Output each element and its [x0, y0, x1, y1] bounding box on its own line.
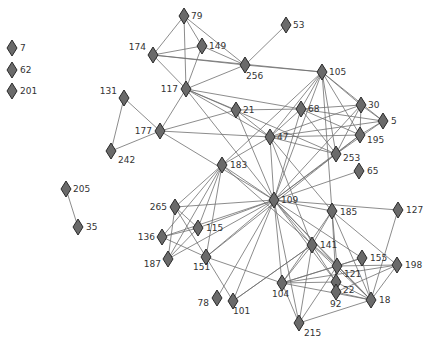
node-177[interactable]: 177: [135, 123, 165, 139]
node-265[interactable]: 265: [150, 199, 180, 215]
diamond-node-icon[interactable]: [393, 202, 403, 218]
diamond-node-icon[interactable]: [157, 229, 167, 245]
node-62[interactable]: 62: [7, 62, 31, 78]
node-label: 22: [343, 285, 354, 295]
node-label: 253: [343, 153, 360, 163]
node-label: 185: [340, 207, 357, 217]
node-label: 265: [150, 202, 167, 212]
diamond-node-icon[interactable]: [281, 17, 291, 33]
edge-174-105: [153, 55, 322, 72]
edge-21-109: [236, 110, 274, 200]
diamond-node-icon[interactable]: [7, 83, 17, 99]
node-label: 121: [344, 269, 361, 279]
diamond-node-icon[interactable]: [7, 40, 17, 56]
diamond-node-icon[interactable]: [357, 250, 367, 266]
node-label: 136: [138, 232, 155, 242]
node-215[interactable]: 215: [294, 315, 321, 338]
diamond-node-icon[interactable]: [148, 47, 158, 63]
node-label: 104: [272, 289, 289, 299]
node-label: 141: [320, 240, 337, 250]
diamond-node-icon[interactable]: [354, 163, 364, 179]
node-label: 53: [293, 20, 304, 30]
diamond-node-icon[interactable]: [366, 292, 376, 308]
node-155[interactable]: 155: [357, 250, 387, 266]
node-label: 205: [73, 184, 90, 194]
node-label: 151: [193, 262, 210, 272]
diamond-node-icon[interactable]: [7, 62, 17, 78]
node-117[interactable]: 117: [161, 81, 191, 97]
node-label: 101: [233, 306, 250, 316]
node-30[interactable]: 30: [356, 97, 380, 113]
diamond-node-icon[interactable]: [331, 146, 341, 162]
node-label: 18: [379, 295, 391, 305]
edge-79-117: [184, 16, 186, 89]
node-5[interactable]: 5: [378, 113, 397, 129]
node-label: 109: [281, 195, 298, 205]
node-label: 183: [230, 160, 247, 170]
edge-109-78: [217, 200, 274, 298]
node-205[interactable]: 205: [61, 181, 90, 197]
edge-121-215: [299, 266, 337, 323]
node-label: 105: [329, 67, 346, 77]
node-label: 195: [367, 135, 384, 145]
node-label: 5: [391, 116, 397, 126]
edge-149-117: [186, 46, 202, 89]
edge-79-174: [153, 16, 184, 55]
diamond-node-icon[interactable]: [73, 219, 83, 235]
diamond-node-icon[interactable]: [378, 113, 388, 129]
node-53[interactable]: 53: [281, 17, 304, 33]
node-18[interactable]: 18: [366, 292, 391, 308]
node-35[interactable]: 35: [73, 219, 97, 235]
node-label: 35: [86, 222, 97, 232]
node-183[interactable]: 183: [217, 157, 247, 173]
node-195[interactable]: 195: [355, 127, 384, 145]
node-201[interactable]: 201: [7, 83, 37, 99]
node-label: 215: [304, 328, 321, 338]
edge-109-104: [274, 200, 282, 283]
node-115[interactable]: 115: [193, 220, 223, 236]
diamond-node-icon[interactable]: [61, 181, 71, 197]
edge-121-104: [282, 266, 337, 283]
edge-151-104: [206, 257, 282, 283]
edge-265-151: [175, 207, 206, 257]
node-174[interactable]: 174: [129, 42, 158, 63]
diamond-node-icon[interactable]: [119, 90, 129, 106]
node-label: 201: [20, 86, 37, 96]
node-104[interactable]: 104: [272, 275, 289, 299]
node-65[interactable]: 65: [354, 163, 378, 179]
node-242[interactable]: 242: [106, 143, 135, 165]
node-253[interactable]: 253: [331, 146, 360, 163]
node-198[interactable]: 198: [392, 257, 422, 273]
node-109[interactable]: 109: [269, 192, 298, 208]
edge-117-109: [186, 89, 274, 200]
diamond-node-icon[interactable]: [331, 284, 341, 300]
diamond-node-icon[interactable]: [265, 129, 275, 145]
node-47[interactable]: 47: [265, 129, 288, 145]
node-131[interactable]: 131: [100, 86, 129, 106]
edge-141-215: [299, 245, 312, 323]
node-187[interactable]: 187: [144, 251, 173, 269]
edge-141-104: [282, 245, 312, 283]
node-label: 149: [209, 41, 226, 51]
node-92[interactable]: 92: [330, 284, 341, 309]
node-256[interactable]: 256: [240, 57, 263, 81]
node-label: 92: [330, 299, 341, 309]
diamond-node-icon[interactable]: [193, 220, 203, 236]
node-136[interactable]: 136: [138, 229, 167, 245]
diamond-node-icon[interactable]: [106, 143, 116, 159]
edge-22-104: [282, 282, 336, 283]
node-149[interactable]: 149: [197, 38, 226, 54]
node-68[interactable]: 68: [296, 101, 320, 117]
node-label: 115: [206, 223, 223, 233]
node-label: 78: [198, 298, 210, 308]
edge-68-109: [274, 109, 301, 200]
node-label: 131: [100, 86, 117, 96]
node-127[interactable]: 127: [393, 202, 423, 218]
diamond-node-icon[interactable]: [392, 257, 402, 273]
diamond-node-icon[interactable]: [356, 97, 366, 113]
node-7[interactable]: 7: [7, 40, 26, 56]
node-78[interactable]: 78: [198, 290, 222, 308]
node-label: 155: [370, 253, 387, 263]
node-105[interactable]: 105: [317, 64, 346, 80]
edge-256-117: [186, 65, 245, 89]
